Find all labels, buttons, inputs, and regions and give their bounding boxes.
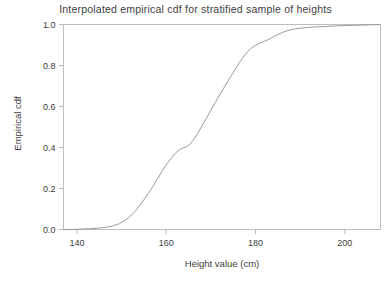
y-tick-label: 0.6	[43, 102, 56, 112]
cdf-curve	[64, 25, 381, 230]
y-axis-label: Empirical cdf	[12, 69, 23, 179]
y-axis-ticks: 0.00.20.40.60.81.0	[43, 20, 64, 235]
chart-figure: Interpolated empirical cdf for stratifie…	[0, 0, 391, 281]
cdf-plot: 140160180200 0.00.20.40.60.81.0	[0, 0, 391, 281]
x-axis-label: Height value (cm)	[63, 258, 381, 269]
y-tick-label: 0.2	[43, 184, 56, 194]
y-tick-label: 1.0	[43, 20, 56, 30]
y-tick-label: 0.8	[43, 61, 56, 71]
plot-frame	[64, 25, 381, 230]
y-tick-label: 0.4	[43, 143, 56, 153]
y-tick-label: 0.0	[43, 225, 56, 235]
x-axis-ticks: 140160180200	[69, 230, 352, 248]
x-tick-label: 160	[159, 238, 174, 248]
x-tick-label: 200	[337, 238, 352, 248]
x-tick-label: 180	[248, 238, 263, 248]
x-tick-label: 140	[69, 238, 84, 248]
cdf-curve-group	[64, 25, 381, 230]
